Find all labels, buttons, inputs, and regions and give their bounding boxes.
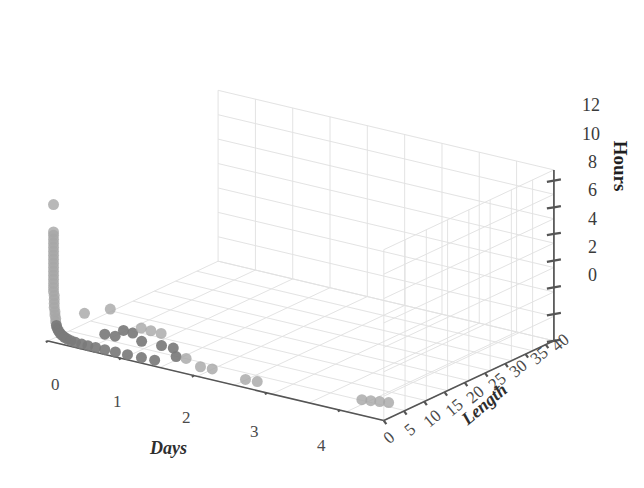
data-point	[90, 342, 101, 353]
x-axis-title: Days	[150, 438, 187, 459]
data-point	[207, 363, 218, 374]
data-point	[99, 344, 110, 355]
data-point	[110, 347, 121, 358]
x-tick-label-4: 4	[317, 436, 326, 456]
data-point	[149, 355, 160, 366]
z-tick-label-6: 6	[588, 180, 597, 201]
figure-3d-scatter-plot: 0 1 2 3 4 Days 0 5 10 15 20 25 30 35 40 …	[0, 0, 644, 488]
data-point	[240, 374, 251, 385]
data-point	[48, 199, 59, 210]
z-tick-label-12: 12	[582, 95, 600, 116]
data-point	[136, 336, 147, 347]
data-point	[99, 329, 110, 340]
data-point	[118, 325, 129, 336]
z-tick-label-2: 2	[588, 237, 597, 258]
z-axis-title: Hours	[609, 141, 631, 192]
data-point	[136, 323, 147, 334]
data-point	[136, 352, 147, 363]
z-tick-label-0: 0	[588, 265, 597, 286]
x-tick-label-0: 0	[51, 375, 60, 395]
grid-lines	[48, 90, 554, 420]
data-point	[156, 328, 167, 339]
data-points	[48, 199, 394, 408]
data-point	[79, 308, 90, 319]
plot-canvas	[0, 0, 644, 488]
data-point	[383, 397, 394, 408]
z-tick-label-10: 10	[582, 124, 600, 145]
z-tick-label-8: 8	[588, 152, 597, 173]
x-tick-label-1: 1	[113, 392, 122, 412]
data-point	[156, 340, 167, 351]
x-tick-label-2: 2	[182, 408, 191, 428]
data-point	[195, 361, 206, 372]
data-point	[145, 325, 156, 336]
data-point	[105, 304, 116, 315]
x-tick-label-3: 3	[250, 422, 259, 442]
z-tick-label-4: 4	[588, 209, 597, 230]
data-point	[171, 351, 182, 362]
data-point	[181, 353, 192, 364]
data-point	[252, 376, 263, 387]
data-point	[122, 349, 133, 360]
